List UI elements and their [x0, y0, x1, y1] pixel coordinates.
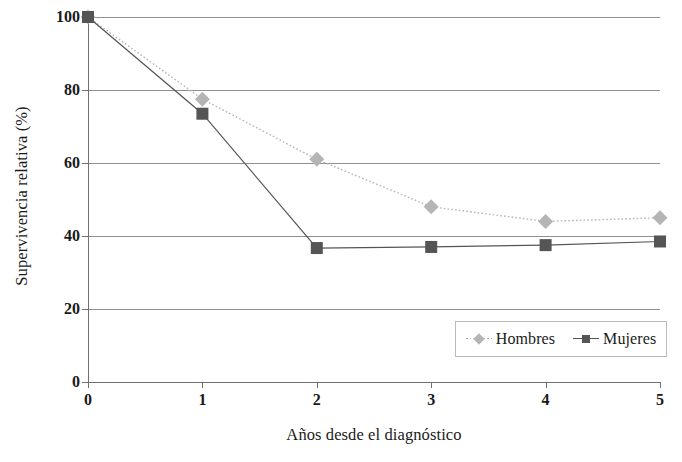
data-point-hombres-1	[195, 92, 210, 107]
x-tick-label: 0	[68, 392, 108, 408]
data-point-mujeres-0	[82, 11, 94, 23]
data-point-mujeres-4	[540, 239, 552, 251]
x-tick-label: 4	[526, 392, 566, 408]
data-point-mujeres-2	[311, 242, 323, 254]
data-point-hombres-5	[653, 210, 668, 225]
x-tick-label: 5	[640, 392, 680, 408]
data-point-hombres-3	[424, 199, 439, 214]
data-point-hombres-4	[538, 214, 553, 229]
mujeres-marker-icon	[573, 333, 599, 345]
legend-entry-hombres: Hombres	[466, 331, 555, 347]
legend-label-mujeres: Mujeres	[603, 331, 656, 347]
data-point-mujeres-3	[425, 241, 437, 253]
data-point-hombres-2	[309, 152, 324, 167]
legend-entry-mujeres: Mujeres	[573, 331, 656, 347]
hombres-marker-icon	[466, 333, 492, 345]
x-tick-label: 3	[411, 392, 451, 408]
legend: Hombres Mujeres	[455, 321, 667, 357]
x-tick-label: 1	[182, 392, 222, 408]
x-axis-tick-labels: 012345	[0, 392, 682, 418]
data-point-mujeres-5	[654, 235, 666, 247]
x-tick-label: 2	[297, 392, 337, 408]
relative-survival-line-chart: Supervivencia relativa (%) 020406080100 …	[0, 0, 682, 462]
series-line-hombres	[88, 17, 660, 221]
legend-label-hombres: Hombres	[496, 331, 555, 347]
x-axis-title: Años desde el diagnóstico	[88, 425, 660, 445]
data-point-mujeres-1	[196, 108, 208, 120]
series-line-mujeres	[88, 17, 660, 248]
